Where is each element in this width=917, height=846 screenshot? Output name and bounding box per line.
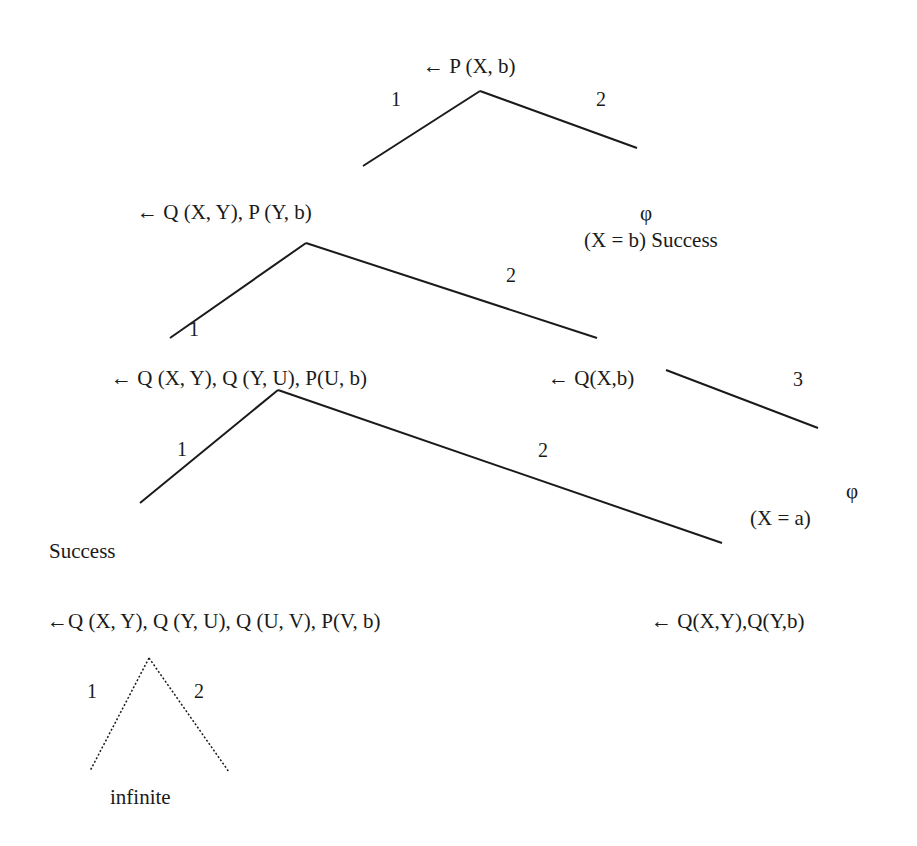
node-level2-left: ← Q (X, Y), Q (Y, U), P(U, b)	[111, 366, 367, 390]
edge-label-l3-2: 2	[194, 680, 204, 702]
node-level3-right: ← Q(X,Y),Q(Y,b)	[651, 609, 805, 633]
empty-clause-phi: φ	[640, 201, 652, 225]
edge-label-l3-1: 1	[87, 680, 97, 702]
binding-x-a: (X = a)	[750, 506, 811, 530]
edge-l2-1	[140, 390, 278, 503]
success-binding-x-b: (X = b) Success	[584, 228, 718, 252]
edge-label-qxb-3: 3	[793, 368, 803, 390]
edge-root-1	[363, 91, 480, 166]
node-root: ← P (X, b)	[423, 54, 516, 78]
edge-label-root-2: 2	[596, 88, 606, 110]
infinite-label: infinite	[110, 785, 171, 809]
edge-l3-2-dotted	[149, 658, 229, 772]
edge-l2-2	[278, 390, 722, 543]
node-level1-left: ← Q (X, Y), P (Y, b)	[137, 200, 312, 224]
edge-root-2	[480, 91, 637, 148]
edge-label-l1-2: 2	[506, 264, 516, 286]
empty-clause-phi-2: φ	[846, 479, 858, 503]
edge-label-l1-1: 1	[189, 318, 199, 340]
node-level2-right: ← Q(X,b)	[548, 366, 634, 390]
node-level3-left: ←Q (X, Y), Q (Y, U), Q (U, V), P(V, b)	[47, 609, 380, 633]
edge-l1-2	[306, 243, 597, 338]
success-label: Success	[49, 539, 116, 563]
edge-label-l2-1: 1	[177, 438, 187, 460]
resolution-tree-diagram: ← P (X, b) 1 2 ← Q (X, Y), P (Y, b) φ (X…	[0, 0, 917, 846]
tree-edges	[0, 0, 917, 846]
edge-l3-1-dotted	[90, 658, 149, 771]
edge-label-l2-2: 2	[538, 439, 548, 461]
edge-label-root-1: 1	[391, 88, 401, 110]
